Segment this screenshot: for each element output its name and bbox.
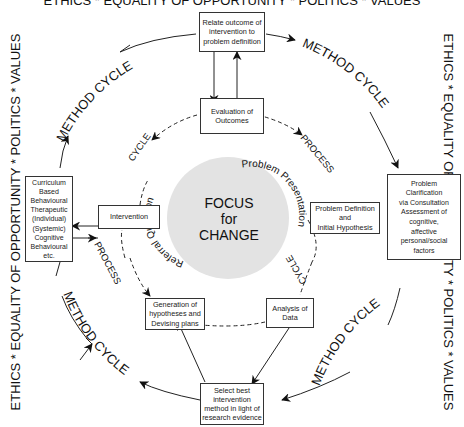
box-line: (Systemic) bbox=[32, 224, 65, 233]
box-line: Analysis of bbox=[272, 304, 307, 313]
method-cycle-label-br: METHOD CYCLE bbox=[308, 295, 382, 387]
box-relate-outcome: Relate outcome of intervention to proble… bbox=[199, 12, 265, 52]
inner-cycle-label-tl: CYCLE bbox=[126, 131, 153, 163]
box-line: Based bbox=[39, 187, 59, 196]
focus-title-line2: for bbox=[221, 211, 238, 227]
box-line: method in light of bbox=[204, 404, 260, 413]
box-line: Behavioural bbox=[31, 242, 68, 251]
box-line: Curriculum bbox=[32, 178, 66, 187]
method-cycle-label-tl: METHOD CYCLE bbox=[53, 57, 135, 143]
box-line: Behavioural bbox=[31, 196, 68, 205]
box-line: Assessment of bbox=[401, 207, 447, 217]
method-cycle-label-bl: METHOD CYCLE bbox=[60, 289, 132, 378]
box-line: problem definition bbox=[203, 37, 261, 46]
box-line: Outcomes bbox=[215, 116, 248, 125]
box-line: affective bbox=[411, 227, 437, 237]
box-generation-hypotheses: Generation of hypotheses and Devising pl… bbox=[145, 298, 205, 330]
box-line: Initial Hypothesis bbox=[317, 223, 372, 232]
method-cycle-label-tr: METHOD CYCLE bbox=[301, 35, 393, 110]
box-line: (Individual) bbox=[32, 214, 66, 223]
box-line: Problem Definition bbox=[315, 204, 375, 213]
box-curriculum-methods: Curriculum Based Behavioural Therapeutic… bbox=[25, 176, 73, 262]
box-line: Evaluation of bbox=[211, 107, 253, 116]
box-line: via Consultation bbox=[399, 198, 449, 208]
box-select-intervention: Select best intervention method in light… bbox=[200, 383, 264, 425]
box-line: Clarification bbox=[406, 188, 443, 198]
box-line: Cognitive bbox=[34, 233, 63, 242]
focus-title-line3: CHANGE bbox=[199, 227, 259, 243]
box-problem-clarification: Problem Clarification via Consultation A… bbox=[387, 174, 461, 260]
box-line: Generation of bbox=[153, 300, 197, 309]
box-line: Select best bbox=[214, 386, 250, 395]
frame-text-top: ETHICS * EQUALITY OF OPPORTUNITY * POLIT… bbox=[44, 0, 421, 8]
box-line: hypotheses and bbox=[149, 309, 201, 318]
box-evaluation-outcomes: Evaluation of Outcomes bbox=[200, 98, 264, 134]
box-line: research evidence bbox=[202, 413, 262, 422]
box-line: factors bbox=[413, 246, 434, 256]
box-line: intervention bbox=[213, 395, 251, 404]
box-line: and bbox=[339, 213, 351, 222]
box-line: Therapeutic bbox=[31, 205, 68, 214]
inner-cycle-label-tr: PROCESS bbox=[298, 132, 336, 175]
frame-text-left: ETHICS * EQUALITY OF OPPORTUNITY * POLIT… bbox=[8, 33, 23, 410]
inner-cycle-label-bl: PROCESS bbox=[92, 240, 124, 286]
inner-cycle-label-br: CYCLE bbox=[283, 254, 308, 287]
focus-title-line1: FOCUS bbox=[205, 195, 254, 211]
box-line: Devising plans bbox=[151, 319, 198, 328]
box-line: intervention to bbox=[209, 27, 255, 36]
box-line: cognitive, bbox=[409, 217, 439, 227]
box-line: etc. bbox=[43, 251, 54, 260]
box-intervention: Intervention bbox=[98, 205, 160, 229]
box-line: Data bbox=[282, 313, 297, 322]
box-line: Problem bbox=[411, 179, 437, 189]
box-analysis-of-data: Analysis of Data bbox=[266, 298, 314, 328]
box-line: Relate outcome of bbox=[202, 18, 261, 27]
box-line: personal/social bbox=[401, 236, 448, 246]
box-line: Intervention bbox=[110, 212, 148, 221]
box-problem-definition: Problem Definition and Initial Hypothesi… bbox=[310, 202, 380, 234]
